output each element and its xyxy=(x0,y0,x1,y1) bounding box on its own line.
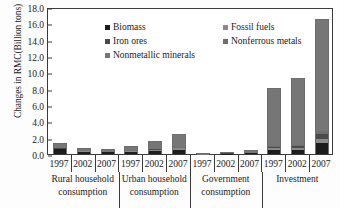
bar-segment xyxy=(245,153,257,154)
stacked-bar[interactable] xyxy=(124,146,138,154)
bar-segment xyxy=(268,89,280,146)
x-axis-year-labels: 1997200220071997200220071997200220071997… xyxy=(47,155,333,172)
stacked-bar[interactable] xyxy=(148,141,162,154)
legend-item[interactable]: Iron ores xyxy=(105,36,223,46)
legend-label: Fossil fuels xyxy=(231,22,275,32)
stacked-bar[interactable] xyxy=(220,152,234,154)
group-label-line: Rural household xyxy=(51,173,114,186)
legend-label: Nonferrous metals xyxy=(231,36,301,46)
bar-segment xyxy=(173,150,185,154)
x-axis-year-label: 2007 xyxy=(238,155,262,172)
chart-figure: Changes in RMC(Billion tons) 0.02.04.06.… xyxy=(0,0,340,208)
bar-segment xyxy=(54,149,66,154)
bar-segment xyxy=(102,152,114,154)
y-axis-tick-label: 16.0 xyxy=(27,20,48,30)
y-axis-tick-label: 18.0 xyxy=(27,4,48,14)
year-separator xyxy=(71,155,72,172)
bar-segment xyxy=(292,150,304,154)
legend-item[interactable]: Fossil fuels xyxy=(223,22,335,32)
x-axis-year-label: 2007 xyxy=(309,155,333,172)
legend-label: Nonmetallic minerals xyxy=(113,50,195,60)
group-separator xyxy=(190,172,191,208)
x-axis-year-label: 2002 xyxy=(285,155,309,172)
y-axis-title: Changes in RMC(Billion tons) xyxy=(13,0,23,141)
bar-segment xyxy=(316,143,328,154)
y-axis-tick-label: 8.0 xyxy=(32,86,48,96)
legend-swatch-icon xyxy=(105,39,110,44)
x-axis-group-label: Rural householdconsumption xyxy=(47,172,119,208)
legend-swatch-icon xyxy=(223,25,228,30)
legend-swatch-icon xyxy=(105,25,110,30)
x-axis-year-label: 2007 xyxy=(166,155,190,172)
x-axis-year-label: 2002 xyxy=(214,155,238,172)
y-axis-tick-label: 6.0 xyxy=(32,102,48,112)
y-axis-tick-label: 10.0 xyxy=(27,69,48,79)
stacked-bar[interactable] xyxy=(196,153,210,154)
legend-item[interactable]: Biomass xyxy=(105,22,223,32)
group-label-line: consumption xyxy=(58,186,107,199)
bar-segment xyxy=(78,152,90,154)
chart-legend: BiomassFossil fuelsIron oresNonferrous m… xyxy=(105,20,335,62)
bar-segment xyxy=(268,150,280,154)
legend-swatch-icon xyxy=(223,39,228,44)
year-separator xyxy=(95,155,96,172)
year-separator xyxy=(309,155,310,172)
year-separator xyxy=(190,155,191,172)
x-axis-year-label: 2002 xyxy=(142,155,166,172)
y-axis-tick-label: 0.0 xyxy=(32,151,48,161)
x-axis: 1997200220071997200220071997200220071997… xyxy=(47,155,333,208)
legend-item[interactable]: Nonferrous metals xyxy=(223,36,335,46)
year-separator xyxy=(166,155,167,172)
plot-area: 0.02.04.06.08.010.012.014.016.018.0 Biom… xyxy=(47,8,333,155)
y-axis-tick-label: 2.0 xyxy=(32,135,48,145)
x-axis-year-label: 1997 xyxy=(47,155,71,172)
year-separator xyxy=(214,155,215,172)
x-axis-group-label: Governmentconsumption xyxy=(190,172,262,208)
y-axis-tick-label: 14.0 xyxy=(27,37,48,47)
x-axis-group-label: Investment xyxy=(262,172,334,208)
group-separator xyxy=(119,172,120,208)
x-axis-group-labels: Rural householdconsumptionUrban househol… xyxy=(47,172,333,208)
stacked-bar[interactable] xyxy=(291,78,305,154)
group-label-line: consumption xyxy=(130,186,179,199)
stacked-bar[interactable] xyxy=(101,149,115,154)
y-axis-tick-label: 4.0 xyxy=(32,118,48,128)
bar-segment xyxy=(292,79,304,145)
stacked-bar[interactable] xyxy=(244,150,258,154)
stacked-bar[interactable] xyxy=(53,143,67,154)
bar-segment xyxy=(173,135,185,146)
year-separator xyxy=(238,155,239,172)
group-label-line: Urban household xyxy=(122,173,187,186)
bar-segment xyxy=(125,152,137,154)
year-separator xyxy=(261,155,262,172)
y-axis-tick-label: 12.0 xyxy=(27,53,48,63)
group-separator xyxy=(262,172,263,208)
bar-segment xyxy=(149,142,161,149)
x-axis-year-label: 2002 xyxy=(71,155,95,172)
stacked-bar[interactable] xyxy=(77,148,91,154)
x-axis-year-label: 1997 xyxy=(190,155,214,172)
legend-swatch-icon xyxy=(105,53,110,58)
legend-label: Biomass xyxy=(113,22,146,32)
bar-segment xyxy=(149,151,161,154)
x-axis-year-label: 2007 xyxy=(95,155,119,172)
year-separator xyxy=(285,155,286,172)
x-axis-group-label: Urban householdconsumption xyxy=(119,172,191,208)
year-separator xyxy=(118,155,119,172)
stacked-bar[interactable] xyxy=(172,134,186,154)
x-axis-year-label: 1997 xyxy=(118,155,142,172)
year-separator xyxy=(142,155,143,172)
legend-item[interactable]: Nonmetallic minerals xyxy=(105,50,223,60)
stacked-bar[interactable] xyxy=(267,88,281,154)
x-axis-year-label: 1997 xyxy=(261,155,285,172)
legend-label: Iron ores xyxy=(113,36,147,46)
group-label-line: Investment xyxy=(276,173,318,186)
group-label-line: Government xyxy=(202,173,250,186)
group-label-line: consumption xyxy=(201,186,250,199)
